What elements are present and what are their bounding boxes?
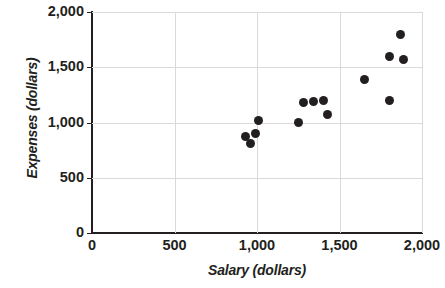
y-axis-tick-label: 2,000 — [4, 3, 84, 19]
data-point — [399, 55, 408, 64]
data-point — [385, 52, 394, 61]
x-axis-tick-label: 0 — [52, 237, 132, 253]
y-axis-tick — [87, 178, 92, 179]
data-point — [360, 75, 369, 84]
y-axis-tick — [87, 123, 92, 124]
y-axis-tick — [87, 233, 92, 234]
data-point — [309, 97, 318, 106]
data-point — [254, 116, 263, 125]
y-axis-tick — [87, 12, 92, 13]
data-point — [299, 98, 308, 107]
gridline-vertical — [422, 12, 423, 233]
data-point — [246, 139, 255, 148]
gridline-vertical — [340, 12, 341, 233]
gridline-vertical — [175, 12, 176, 233]
plot-area — [92, 12, 422, 233]
data-point — [294, 118, 303, 127]
data-point — [323, 110, 332, 119]
data-point — [396, 30, 405, 39]
data-point — [319, 96, 328, 105]
x-axis-tick-label: 1,500 — [300, 237, 380, 253]
x-axis-tick-label: 2,000 — [382, 237, 445, 253]
y-axis-tick-label: 500 — [4, 169, 84, 185]
x-axis-tick-label: 1,000 — [217, 237, 297, 253]
data-point — [385, 96, 394, 105]
y-axis-tick — [87, 67, 92, 68]
y-axis-tick-label: 1,000 — [4, 114, 84, 130]
y-axis-tick-label: 1,500 — [4, 58, 84, 74]
x-axis-title: Salary (dollars) — [92, 262, 422, 278]
data-point — [251, 129, 260, 138]
x-axis-tick-label: 500 — [135, 237, 215, 253]
